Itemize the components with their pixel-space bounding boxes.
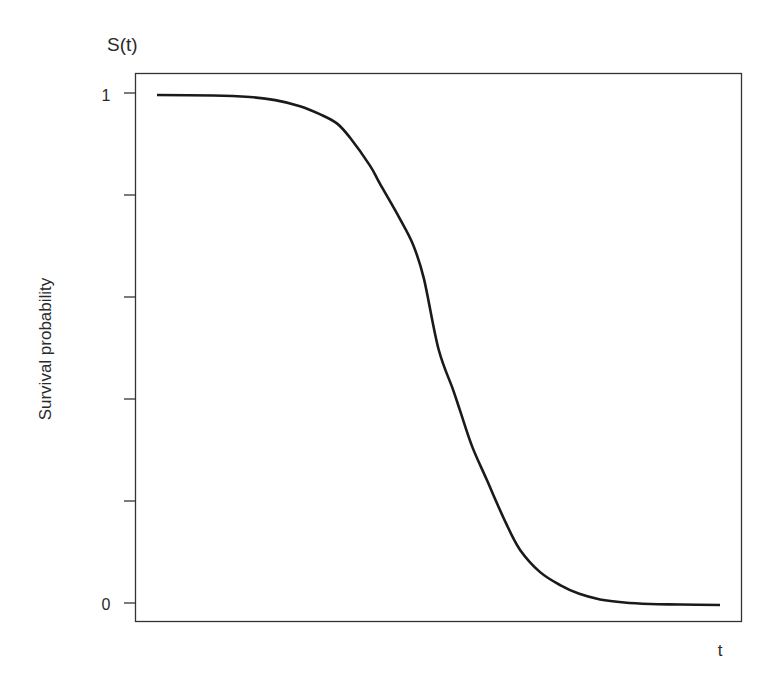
y-tick-label-1: 1	[102, 87, 111, 104]
survival-curve	[157, 95, 720, 605]
y-top-label: S(t)	[107, 34, 138, 55]
y-ticks	[124, 93, 136, 603]
x-axis-label: t	[718, 641, 723, 660]
y-axis-label: Survival probability	[36, 277, 55, 420]
survival-chart: S(t) Survival probability 1 0 t	[0, 0, 784, 678]
y-tick-label-0: 0	[102, 596, 111, 613]
